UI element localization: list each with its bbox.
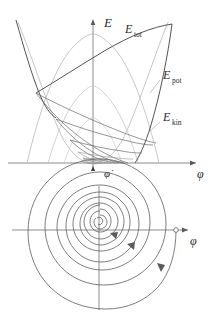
label-e-kin-subscript: kin — [172, 118, 182, 127]
phase-spiral-core — [97, 217, 103, 224]
upper-x-axis-arrow-icon — [190, 161, 196, 166]
energy-vs-angle-plot: E φ φ̇ E tot E pot E kin — [8, 15, 204, 181]
upper-y-axis-label: E — [103, 15, 112, 30]
label-e-kin: E kin — [162, 110, 182, 127]
label-e-tot-symbol: E — [124, 22, 133, 36]
label-e-pot-subscript: pot — [172, 76, 183, 85]
phase-portrait-plot: φ — [12, 159, 197, 310]
lens-chord-2 — [56, 119, 153, 145]
spiral-arrow-2-icon — [127, 242, 135, 250]
physics-figure: E φ φ̇ E tot E pot E kin — [0, 0, 215, 320]
label-e-tot: E tot — [124, 22, 143, 39]
trajectory-start-marker — [174, 228, 179, 233]
figure-root: E φ φ̇ E tot E pot E kin — [0, 0, 215, 320]
lower-x-axis-label: φ — [190, 234, 197, 248]
origin-marker-icon — [91, 166, 95, 171]
label-e-tot-subscript: tot — [134, 30, 143, 39]
label-e-kin-symbol: E — [162, 110, 171, 124]
curve-e-tot-upper-arc — [36, 24, 172, 93]
label-e-pot: E pot — [162, 68, 183, 85]
upper-y-axis-arrow-icon — [91, 19, 96, 25]
phase-spiral-middle — [73, 192, 130, 251]
spiral-arrow-1-icon — [157, 263, 165, 272]
phase-spiral-inner-2 — [90, 209, 111, 232]
curve-e-tot-left-branch — [16, 20, 56, 118]
lower-x-axis-arrow-icon — [182, 228, 188, 233]
phase-spiral-outer — [28, 159, 176, 309]
upper-x-axis-label: φ — [197, 167, 204, 181]
label-e-pot-symbol: E — [162, 68, 171, 82]
leader-line-e-pot — [150, 80, 160, 93]
